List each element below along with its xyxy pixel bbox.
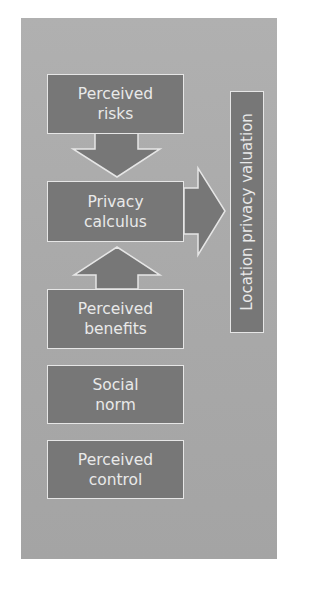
node-label-line: control xyxy=(89,470,143,490)
arrow-down-risks-to-calculus xyxy=(73,133,160,177)
node-social-norm: Social norm xyxy=(47,365,184,424)
node-label-line: norm xyxy=(95,395,136,415)
arrow-up-benefits-to-calculus xyxy=(74,247,160,289)
node-label-line: calculus xyxy=(84,212,147,232)
node-label-line: Perceived xyxy=(78,450,153,470)
node-label-line: Perceived xyxy=(78,84,153,104)
node-label-line: Social xyxy=(93,375,139,395)
node-label-line: Perceived xyxy=(78,299,153,319)
node-label-line: benefits xyxy=(84,319,147,339)
arrow-right-calculus-to-valuation xyxy=(184,168,225,255)
node-label-line: risks xyxy=(98,104,134,124)
node-label-line: Privacy xyxy=(87,192,143,212)
node-privacy-calculus: Privacy calculus xyxy=(47,181,184,242)
node-perceived-benefits: Perceived benefits xyxy=(47,289,184,349)
node-perceived-risks: Perceived risks xyxy=(47,74,184,134)
node-perceived-control: Perceived control xyxy=(47,440,184,499)
outcome-label: Location privacy valuation xyxy=(238,113,256,311)
node-location-privacy-valuation: Location privacy valuation xyxy=(230,91,264,333)
